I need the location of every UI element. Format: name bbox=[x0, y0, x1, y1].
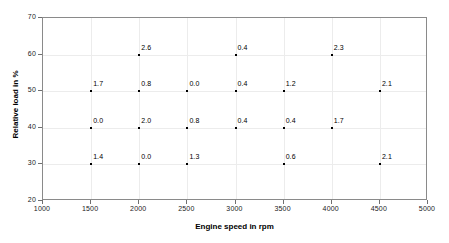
data-point-label: 1.2 bbox=[286, 80, 296, 87]
x-axis-tick bbox=[42, 200, 43, 204]
gridline-horizontal bbox=[43, 164, 426, 165]
x-axis-tick-label: 1500 bbox=[68, 205, 112, 212]
data-point-label: 2.1 bbox=[382, 153, 392, 160]
data-point bbox=[283, 127, 285, 129]
data-point bbox=[235, 54, 237, 56]
data-point bbox=[138, 90, 140, 92]
data-point-label: 2.1 bbox=[382, 80, 392, 87]
data-point bbox=[138, 127, 140, 129]
data-point bbox=[235, 90, 237, 92]
x-axis-title: Engine speed in rpm bbox=[42, 222, 427, 231]
x-axis-tick-label: 1000 bbox=[20, 205, 64, 212]
data-point bbox=[379, 163, 381, 165]
x-axis-tick-label: 3000 bbox=[213, 205, 257, 212]
gridline-vertical bbox=[91, 18, 92, 199]
data-point bbox=[138, 163, 140, 165]
data-point-label: 0.0 bbox=[189, 80, 199, 87]
gridline-vertical bbox=[139, 18, 140, 199]
x-axis-tick-label: 2000 bbox=[116, 205, 160, 212]
gridline-vertical bbox=[236, 18, 237, 199]
x-axis-tick bbox=[427, 200, 428, 204]
data-point-label: 0.0 bbox=[93, 117, 103, 124]
data-point-label: 2.0 bbox=[141, 117, 151, 124]
y-axis-tick bbox=[38, 17, 42, 18]
x-axis-tick bbox=[331, 200, 332, 204]
data-point-label: 1.7 bbox=[93, 80, 103, 87]
data-point-label: 2.6 bbox=[141, 44, 151, 51]
y-axis-title: Relative load in % bbox=[11, 13, 20, 196]
y-axis-tick bbox=[38, 200, 42, 201]
y-axis-tick bbox=[38, 90, 42, 91]
x-axis-tick bbox=[379, 200, 380, 204]
x-axis-tick-label: 4000 bbox=[309, 205, 353, 212]
data-point-label: 1.3 bbox=[189, 153, 199, 160]
data-point-label: 1.7 bbox=[334, 117, 344, 124]
x-axis-tick bbox=[235, 200, 236, 204]
y-axis-tick bbox=[38, 54, 42, 55]
x-axis-tick-label: 5000 bbox=[405, 205, 449, 212]
x-axis-tick-label: 2500 bbox=[164, 205, 208, 212]
data-point-label: 0.4 bbox=[286, 117, 296, 124]
data-point-label: 2.3 bbox=[334, 44, 344, 51]
data-point bbox=[90, 127, 92, 129]
x-axis-tick bbox=[90, 200, 91, 204]
data-point-label: 0.4 bbox=[238, 80, 248, 87]
data-point bbox=[90, 163, 92, 165]
plot-area: 2.60.42.31.70.80.00.41.22.10.02.00.80.40… bbox=[42, 17, 427, 200]
gridline-vertical bbox=[380, 18, 381, 199]
y-axis-tick bbox=[38, 127, 42, 128]
x-axis-tick-label: 3500 bbox=[261, 205, 305, 212]
gridline-vertical bbox=[332, 18, 333, 199]
data-point-label: 0.8 bbox=[141, 80, 151, 87]
x-axis-tick bbox=[138, 200, 139, 204]
x-axis-tick bbox=[283, 200, 284, 204]
data-point bbox=[379, 90, 381, 92]
data-point-label: 0.4 bbox=[238, 44, 248, 51]
data-point bbox=[138, 54, 140, 56]
data-point bbox=[186, 163, 188, 165]
y-axis-tick bbox=[38, 163, 42, 164]
x-axis-tick-label: 4500 bbox=[357, 205, 401, 212]
x-axis-tick bbox=[186, 200, 187, 204]
data-point bbox=[283, 90, 285, 92]
data-point-label: 0.6 bbox=[286, 153, 296, 160]
gridline-vertical bbox=[187, 18, 188, 199]
data-point-label: 0.0 bbox=[141, 153, 151, 160]
data-point bbox=[186, 127, 188, 129]
data-point bbox=[283, 163, 285, 165]
data-point-label: 1.4 bbox=[93, 153, 103, 160]
data-point bbox=[235, 127, 237, 129]
gridline-vertical bbox=[284, 18, 285, 199]
data-point bbox=[331, 54, 333, 56]
data-point-label: 0.8 bbox=[189, 117, 199, 124]
scatter-chart: 2.60.42.31.70.80.00.41.22.10.02.00.80.40… bbox=[0, 0, 449, 243]
y-axis-tick-label: 20 bbox=[14, 196, 36, 203]
data-point bbox=[331, 127, 333, 129]
data-point bbox=[90, 90, 92, 92]
data-point-label: 0.4 bbox=[238, 117, 248, 124]
data-point bbox=[186, 90, 188, 92]
